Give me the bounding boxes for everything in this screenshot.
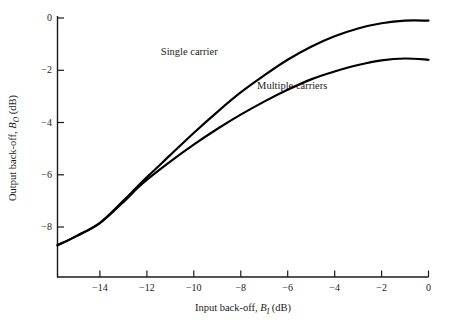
ytick-label-minus8: −8 [41, 222, 52, 232]
y-axis-title-subscript: O [12, 117, 21, 122]
x-axis-title-prefix: Input back-off, [195, 302, 260, 313]
x-axis-title-suffix: (dB) [269, 302, 291, 313]
x-axis-title: Input back-off, BI (dB) [195, 303, 291, 316]
annotation-multiple-carriers: Multiple carriers [257, 81, 327, 92]
ytick-label-minus2: −2 [41, 65, 52, 75]
ytick-label-minus6: −6 [41, 170, 52, 180]
plot-canvas [0, 0, 450, 324]
ytick-label-0: 0 [47, 13, 52, 23]
chart-figure: 0 −2 −4 −6 −8 −14 −12 −10 −8 −6 −4 −2 0 … [0, 0, 450, 324]
ytick-label-minus4: −4 [41, 118, 52, 128]
y-axis-title-symbol: B [7, 122, 18, 128]
y-axis-title-prefix: Output back-off, [7, 129, 18, 201]
annotation-single-carrier: Single carrier [161, 47, 218, 58]
xtick-label-minus2: −2 [376, 283, 387, 293]
y-axis-title: Output back-off, BO (dB) [8, 95, 21, 201]
xtick-label-minus8: −8 [235, 283, 246, 293]
xtick-label-0: 0 [426, 283, 431, 293]
xtick-label-minus12: −12 [139, 283, 155, 293]
xtick-label-minus14: −14 [92, 283, 108, 293]
xtick-label-minus6: −6 [282, 283, 293, 293]
chart-background [0, 0, 450, 324]
xtick-label-minus10: −10 [186, 283, 202, 293]
xtick-label-minus4: −4 [329, 283, 340, 293]
y-axis-title-suffix: (dB) [7, 95, 18, 117]
